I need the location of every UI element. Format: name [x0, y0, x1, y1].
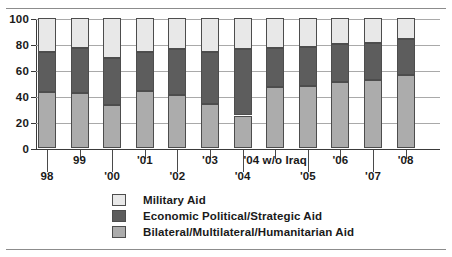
legend-swatch-economic-aid: [112, 210, 126, 222]
x-tick-label-03: '03: [202, 154, 218, 166]
bar-01: [136, 18, 154, 148]
legend-row: Military Aid: [112, 192, 354, 208]
x-tick-label-06: '06: [332, 154, 348, 166]
legend-label: Bilateral/Multilateral/Humanitarian Aid: [143, 226, 354, 238]
bar-segment-bilateral: [234, 116, 252, 149]
bar-segment-economic: [397, 39, 415, 75]
bar-segment-bilateral: [266, 87, 284, 148]
bar-segment-economic: [103, 58, 121, 105]
bar-segment-bilateral: [103, 105, 121, 148]
bar-segment-bilateral: [331, 82, 349, 148]
x-tick-label-00: '00: [104, 170, 120, 182]
bar-04-w-o-Iraq: [266, 18, 284, 148]
plot-area: 020406080100: [36, 19, 440, 149]
bar-segment-military: [299, 18, 317, 47]
bar-segment-economic: [201, 52, 219, 104]
x-tick-label-05: '05: [300, 170, 316, 182]
bar-segment-bilateral: [136, 91, 154, 148]
y-tick-label-100: 100: [9, 13, 29, 25]
y-tick-label-40: 40: [16, 91, 29, 103]
y-tick-60: [31, 71, 36, 72]
bar-segment-bilateral: [364, 80, 382, 148]
bar-segment-bilateral: [299, 86, 317, 148]
x-tick-label-98: 98: [41, 170, 54, 182]
bar-segment-economic: [168, 49, 186, 95]
y-tick-label-20: 20: [16, 117, 29, 129]
legend-label: Economic Political/Strategic Aid: [143, 210, 322, 222]
x-tick-label-04: '04: [235, 170, 251, 182]
bar-segment-military: [364, 18, 382, 43]
bar-segment-economic: [299, 47, 317, 86]
x-tick-10: [373, 150, 374, 172]
bar-98: [38, 18, 56, 148]
y-tick-0: [31, 149, 36, 150]
bar-segment-military: [266, 18, 284, 48]
x-tick-8: [308, 150, 309, 172]
chart-legend: Military AidEconomic Political/Strategic…: [112, 192, 354, 240]
bar-segment-military: [331, 18, 349, 44]
bar-segment-economic: [136, 52, 154, 91]
y-tick-label-0: 0: [22, 143, 29, 155]
x-tick-label-08: '08: [398, 154, 414, 166]
x-tick-label-02: '02: [169, 170, 185, 182]
bar-07: [364, 18, 382, 148]
bar-segment-bilateral: [201, 104, 219, 148]
bar-segment-military: [201, 18, 219, 52]
bar-segment-economic: [71, 48, 89, 94]
bar-05: [299, 18, 317, 148]
bar-02: [168, 18, 186, 148]
bar-segment-economic: [38, 52, 56, 92]
bar-segment-military: [71, 18, 89, 48]
y-tick-20: [31, 123, 36, 124]
y-tick-label-60: 60: [16, 65, 29, 77]
x-tick-label-04-w-o-Iraq: '04 w/o Iraq: [244, 154, 307, 166]
bar-segment-military: [38, 18, 56, 52]
bar-segment-bilateral: [71, 93, 89, 148]
bar-segment-economic: [331, 44, 349, 82]
bar-99: [71, 18, 89, 148]
bar-04: [234, 18, 252, 148]
x-axis-line: [36, 149, 440, 150]
bar-segment-military: [136, 18, 154, 52]
x-tick-label-01: '01: [137, 154, 153, 166]
legend-row: Economic Political/Strategic Aid: [112, 208, 354, 224]
bar-segment-bilateral: [168, 95, 186, 148]
y-tick-label-80: 80: [16, 39, 29, 51]
bar-segment-military: [397, 18, 415, 39]
bar-segment-military: [234, 18, 252, 49]
x-tick-label-99: 99: [73, 154, 86, 166]
x-tick-4: [177, 150, 178, 172]
bar-segment-economic: [234, 49, 252, 115]
y-tick-80: [31, 45, 36, 46]
y-tick-100: [31, 19, 36, 20]
y-axis-line: [36, 19, 37, 150]
bottom-rule: [6, 249, 446, 250]
bar-08: [397, 18, 415, 148]
bar-segment-military: [168, 18, 186, 49]
bar-03: [201, 18, 219, 148]
x-tick-2: [112, 150, 113, 172]
x-tick-0: [47, 150, 48, 172]
legend-label: Military Aid: [143, 194, 206, 206]
bar-segment-economic: [266, 48, 284, 87]
legend-swatch-military-aid: [112, 194, 126, 206]
legend-row: Bilateral/Multilateral/Humanitarian Aid: [112, 224, 354, 240]
y-tick-40: [31, 97, 36, 98]
x-tick-label-07: '07: [365, 170, 381, 182]
bar-06: [331, 18, 349, 148]
chart-figure: 020406080100 9899'00'01'02'03'04'04 w/o …: [0, 0, 452, 257]
bar-00: [103, 18, 121, 148]
bar-segment-bilateral: [397, 75, 415, 148]
legend-swatch-bilateral-aid: [112, 226, 126, 238]
top-rule: [6, 8, 446, 9]
bar-segment-military: [103, 18, 121, 58]
bar-segment-economic: [364, 43, 382, 81]
bar-segment-bilateral: [38, 92, 56, 148]
